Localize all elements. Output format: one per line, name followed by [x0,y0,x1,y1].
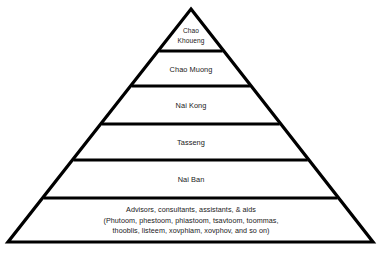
tier-1-label-line-1: Chao [183,27,199,34]
tier-3-label-line-1: Nai Kong [176,101,207,110]
tier-1-label-line-2: Khoueng [178,37,205,45]
pyramid-diagram: ChaoKhouengChao MuongNai KongTassengNai … [0,0,382,261]
tier-4-label-line-1: Tasseng [177,138,205,147]
tier-6-label-line-1: Advisors, consultants, assistants, & aid… [126,205,256,214]
tier-5-label-line-1: Nai Ban [178,175,205,184]
tier-6-label-line-2: (Phutoom, phestoom, phiastoom, tsavtoom,… [103,216,278,225]
tier-6-label-line-3: thooblis, listeem, xovphiam, xovphov, an… [113,226,270,235]
tier-2-label-line-1: Chao Muong [170,65,213,74]
pyramid-graphic: ChaoKhouengChao MuongNai KongTassengNai … [0,0,382,261]
